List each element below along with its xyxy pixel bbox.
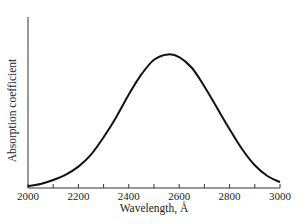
axes (28, 17, 280, 188)
absorption-curve (28, 54, 280, 186)
x-tick-label: 2800 (219, 190, 242, 202)
x-tick-label: 2200 (67, 190, 90, 202)
x-axis-label: Wavelength, Å (120, 201, 189, 215)
x-tick-label: 2600 (168, 190, 191, 202)
x-ticks (28, 184, 280, 188)
x-tick-label: 3000 (269, 190, 292, 202)
y-axis-label: Absorption coefficient (6, 58, 19, 162)
x-tick-label: 2400 (118, 190, 141, 202)
x-tick-labels: 200022002400260028003000 (17, 190, 292, 202)
x-tick-label: 2000 (17, 190, 40, 202)
absorption-chart: 200022002400260028003000 Wavelength, Å A… (0, 0, 307, 224)
